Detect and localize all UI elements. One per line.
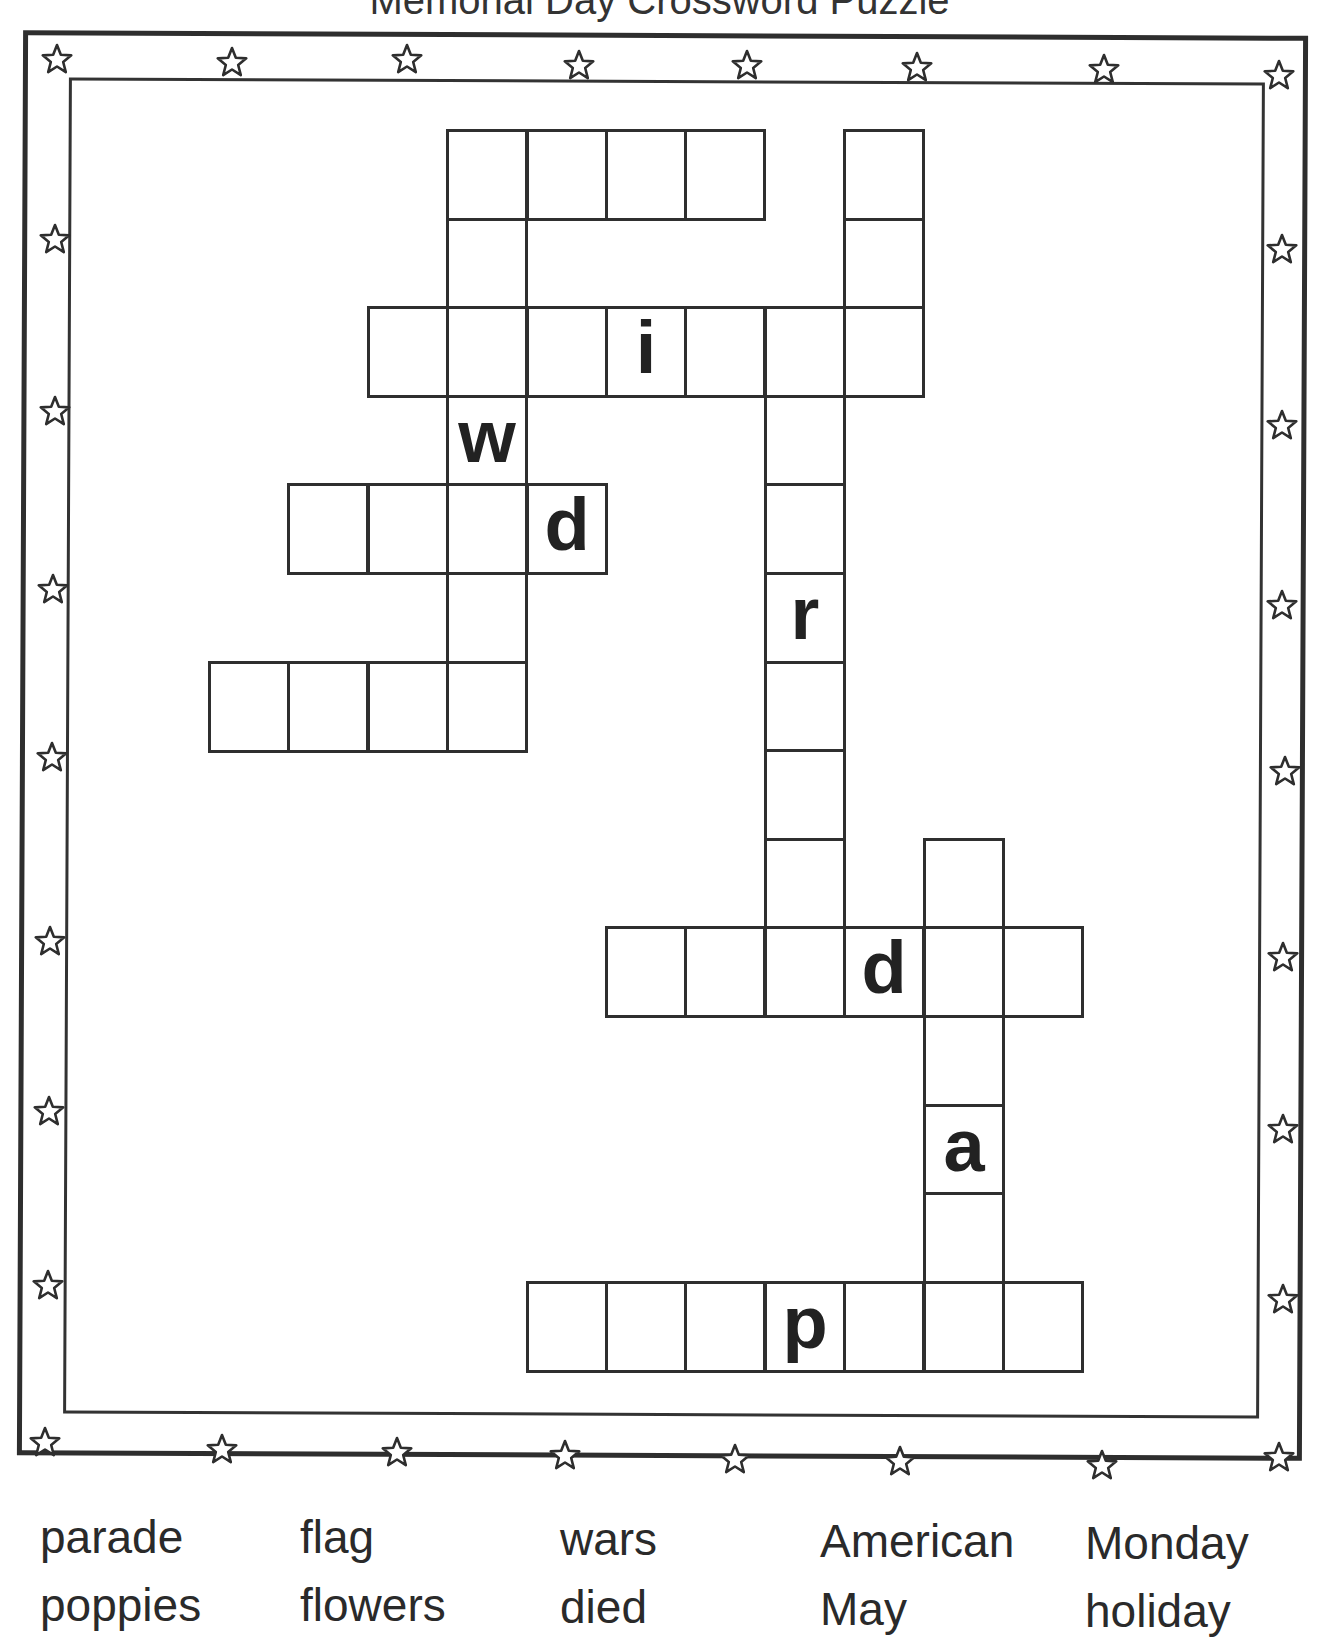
- crossword-cell[interactable]: [764, 661, 846, 753]
- crossword-cell[interactable]: [843, 306, 925, 398]
- star-outline-icon: [33, 924, 67, 958]
- crossword-cell[interactable]: [843, 218, 925, 310]
- crossword-cell[interactable]: [764, 926, 846, 1018]
- cell-letter: d: [861, 931, 906, 1005]
- crossword-cell[interactable]: [446, 572, 528, 664]
- word-bank-item: American: [820, 1514, 1014, 1568]
- crossword-cell[interactable]: [923, 1281, 1005, 1373]
- crossword-cell[interactable]: [605, 1281, 687, 1373]
- crossword-cell[interactable]: [684, 306, 766, 398]
- crossword-cell[interactable]: [1002, 1281, 1084, 1373]
- star-outline-icon: [40, 42, 74, 76]
- crossword-cell[interactable]: [287, 661, 369, 753]
- crossword-cell-given-letter[interactable]: i: [605, 306, 687, 398]
- star-outline-icon: [1266, 940, 1300, 974]
- crossword-cell[interactable]: [446, 129, 528, 221]
- crossword-cell[interactable]: [367, 661, 449, 753]
- star-outline-icon: [32, 1094, 66, 1128]
- star-outline-icon: [380, 1435, 414, 1469]
- star-outline-icon: [1265, 588, 1299, 622]
- crossword-cell[interactable]: [526, 129, 608, 221]
- crossword-cell[interactable]: [446, 218, 528, 310]
- crossword-cell[interactable]: [367, 483, 449, 575]
- word-bank-item: flowers: [300, 1578, 446, 1632]
- crossword-cell[interactable]: [764, 395, 846, 487]
- word-bank-item: poppies: [40, 1578, 201, 1632]
- star-outline-icon: [36, 572, 70, 606]
- star-outline-icon: [38, 222, 72, 256]
- crossword-cell-given-letter[interactable]: d: [526, 483, 608, 575]
- crossword-cell[interactable]: [923, 1015, 1005, 1107]
- crossword-cell[interactable]: [287, 483, 369, 575]
- star-outline-icon: [1085, 1448, 1119, 1482]
- crossword-cell[interactable]: [764, 749, 846, 841]
- star-outline-icon: [205, 1432, 239, 1466]
- crossword-cell[interactable]: [1002, 926, 1084, 1018]
- crossword-cell[interactable]: [843, 129, 925, 221]
- crossword-cell[interactable]: [605, 926, 687, 1018]
- cell-letter: i: [636, 311, 657, 385]
- crossword-cell[interactable]: [446, 483, 528, 575]
- word-bank-item: parade: [40, 1510, 183, 1564]
- star-outline-icon: [718, 1442, 752, 1476]
- crossword-cell[interactable]: [764, 306, 846, 398]
- cell-letter: p: [782, 1286, 827, 1360]
- star-outline-icon: [1262, 58, 1296, 92]
- star-outline-icon: [1265, 232, 1299, 266]
- crossword-cell[interactable]: [367, 306, 449, 398]
- crossword-cell[interactable]: [684, 1281, 766, 1373]
- cell-letter: d: [544, 488, 589, 562]
- star-outline-icon: [1262, 1440, 1296, 1474]
- word-bank-item: died: [560, 1580, 647, 1634]
- crossword-cell[interactable]: [923, 838, 1005, 930]
- crossword-cell-given-letter[interactable]: p: [764, 1281, 846, 1373]
- crossword-cell-given-letter[interactable]: d: [843, 926, 925, 1018]
- star-outline-icon: [730, 48, 764, 82]
- crossword-cell[interactable]: [446, 306, 528, 398]
- star-outline-icon: [1265, 408, 1299, 442]
- crossword-cell[interactable]: [684, 129, 766, 221]
- crossword-cell[interactable]: [446, 661, 528, 753]
- star-outline-icon: [28, 1425, 62, 1459]
- crossword-cell[interactable]: [764, 838, 846, 930]
- crossword-cell-given-letter[interactable]: w: [446, 395, 528, 487]
- word-bank-item: holiday: [1085, 1584, 1231, 1638]
- crossword-cell[interactable]: [764, 483, 846, 575]
- crossword-cell[interactable]: [526, 1281, 608, 1373]
- crossword-cell-given-letter[interactable]: a: [923, 1104, 1005, 1196]
- star-outline-icon: [390, 42, 424, 76]
- word-bank-item: wars: [560, 1512, 657, 1566]
- crossword-cell[interactable]: [208, 661, 290, 753]
- crossword-cell-given-letter[interactable]: r: [764, 572, 846, 664]
- star-outline-icon: [548, 1438, 582, 1472]
- star-outline-icon: [38, 394, 72, 428]
- word-bank-item: Monday: [1085, 1516, 1249, 1570]
- word-bank: parade poppies flag flowers wars died Am…: [0, 1490, 1319, 1640]
- word-bank-item: May: [820, 1582, 907, 1636]
- star-outline-icon: [35, 740, 69, 774]
- star-outline-icon: [883, 1444, 917, 1478]
- page-title-cut-off: Memorial Day Crossword Puzzle: [0, 0, 1319, 23]
- star-outline-icon: [31, 1268, 65, 1302]
- word-bank-item: flag: [300, 1510, 374, 1564]
- crossword-cell[interactable]: [923, 926, 1005, 1018]
- cell-letter: w: [458, 400, 516, 474]
- star-outline-icon: [215, 45, 249, 79]
- star-outline-icon: [1268, 754, 1302, 788]
- star-outline-icon: [1266, 1282, 1300, 1316]
- star-outline-icon: [1087, 52, 1121, 86]
- crossword-cell[interactable]: [684, 926, 766, 1018]
- crossword-cell[interactable]: [843, 1281, 925, 1373]
- crossword-cell[interactable]: [923, 1192, 1005, 1284]
- crossword-cell[interactable]: [526, 306, 608, 398]
- cell-letter: r: [791, 577, 820, 651]
- crossword-cell[interactable]: [605, 129, 687, 221]
- star-outline-icon: [1266, 1112, 1300, 1146]
- star-outline-icon: [900, 50, 934, 84]
- cell-letter: a: [943, 1109, 984, 1183]
- star-outline-icon: [562, 48, 596, 82]
